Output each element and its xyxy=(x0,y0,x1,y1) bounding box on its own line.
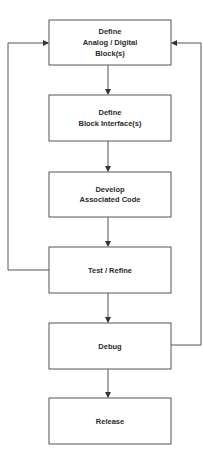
node-define-blocks: Define Analog / Digital Block(s) xyxy=(49,20,171,65)
node-develop-code: Develop Associated Code xyxy=(49,172,171,217)
node-label-line: Develop xyxy=(95,185,125,194)
node-release: Release xyxy=(49,398,171,444)
node-label-line: Block(s) xyxy=(95,49,125,58)
node-debug: Debug xyxy=(49,323,171,369)
node-label-line: Release xyxy=(96,417,124,426)
node-label-line: Block Interface(s) xyxy=(79,119,142,128)
right-feedback-arrow xyxy=(171,43,201,345)
flowchart: Define Analog / Digital Block(s) Define … xyxy=(0,0,203,454)
node-label-line: Test / Refine xyxy=(88,266,132,275)
node-label-line: Debug xyxy=(98,342,122,351)
node-label-line: Define xyxy=(99,108,122,117)
left-feedback-arrow xyxy=(8,43,49,270)
node-test-refine: Test / Refine xyxy=(49,247,171,293)
node-label-line: Define xyxy=(99,27,122,36)
node-label-line: Analog / Digital xyxy=(83,38,138,47)
node-define-interfaces: Define Block Interface(s) xyxy=(49,95,171,141)
node-label-line: Associated Code xyxy=(80,195,141,204)
